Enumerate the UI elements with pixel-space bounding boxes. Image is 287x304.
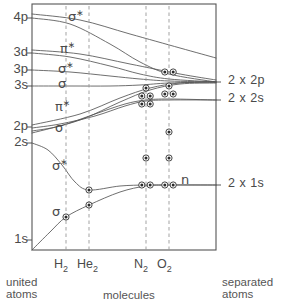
right-level-label-2x2p: 2 x 2p	[228, 74, 265, 87]
orbital-symbol: σ	[55, 120, 63, 135]
orbital-symbol: σ	[58, 76, 66, 91]
right-level-label-2x1s: 2 x 1s	[228, 177, 264, 190]
orbital-label-pi-star-2p: π∗	[55, 99, 70, 113]
orbital-label-sigma-star-3p: σ∗	[58, 61, 74, 75]
footer-united-atoms: united atoms	[6, 277, 37, 300]
figure-canvas: 4p3d3p3s2p2s1s 2 x 2p2 x 2s2 x 1s σ∗π∗σ∗…	[0, 0, 287, 304]
molecule-he2-label: He2	[77, 258, 98, 274]
orbital-label-pi-star-3d: π∗	[60, 41, 75, 55]
orbital-symbol: σ	[52, 158, 60, 173]
orbital-symbol: n	[181, 172, 189, 187]
orbital-label-nonbonding-n: n	[181, 173, 189, 186]
electron-dot	[147, 93, 153, 99]
left-level-label-2s: 2s	[2, 135, 28, 148]
element-symbol: O	[157, 257, 167, 271]
electron-dot	[162, 91, 168, 97]
electron-dot	[166, 155, 172, 161]
antibonding-star: ∗	[60, 157, 68, 167]
antibonding-star: ∗	[76, 8, 84, 18]
element-symbol: H	[54, 257, 63, 271]
orbital-symbol: σ	[58, 61, 66, 76]
electron-dot	[162, 182, 168, 188]
left-level-label-4p: 4p	[2, 10, 28, 23]
molecule-h2-label: H2	[54, 258, 68, 274]
subscript-count: 2	[167, 264, 172, 274]
orbital-symbol: π	[55, 99, 63, 114]
left-level-label-3p: 3p	[2, 62, 28, 75]
electron-dot	[170, 69, 176, 75]
subscript-count: 2	[63, 264, 68, 274]
left-level-label-3s: 3s	[2, 78, 28, 91]
footer-separated-atoms: separated atoms	[222, 277, 273, 300]
electron-dot	[63, 214, 69, 220]
molecule-n2-label: N2	[134, 258, 148, 274]
electron-dot	[143, 85, 149, 91]
electron-dot	[86, 187, 92, 193]
orbital-symbol: σ	[52, 204, 60, 219]
electron-dot	[166, 129, 172, 135]
electron-dot	[162, 69, 168, 75]
electron-dot	[139, 101, 145, 107]
electron-dot	[86, 202, 92, 208]
orbital-label-sigma-3s: σ	[58, 77, 66, 90]
electron-dots	[63, 69, 176, 220]
electron-dot	[139, 93, 145, 99]
orbital-label-sigma-2p: σ	[55, 121, 63, 134]
subscript-count: 2	[93, 264, 98, 274]
electron-dot	[170, 182, 176, 188]
electron-dot	[166, 83, 172, 89]
left-level-label-1s: 1s	[2, 232, 28, 245]
antibonding-star: ∗	[66, 60, 74, 70]
orbital-symbol: π	[60, 41, 68, 56]
orbital-label-sigma-1s: σ	[52, 205, 60, 218]
orbital-label-sigma-star-2s: σ∗	[52, 158, 68, 172]
antibonding-star: ∗	[63, 98, 71, 108]
antibonding-star: ∗	[68, 40, 76, 50]
electron-dot	[139, 182, 145, 188]
electron-dot	[147, 182, 153, 188]
molecule-guidelines	[66, 6, 169, 250]
electron-dot	[170, 91, 176, 97]
orbital-symbol: σ	[68, 9, 76, 24]
left-level-label-2p: 2p	[2, 119, 28, 132]
right-level-label-2x2s: 2 x 2s	[228, 92, 264, 105]
molecule-o2-label: O2	[157, 258, 172, 274]
electron-dot	[147, 101, 153, 107]
electron-dot	[143, 155, 149, 161]
element-symbol: He	[77, 257, 93, 271]
element-symbol: N	[134, 257, 143, 271]
footer-molecules: molecules	[103, 290, 155, 302]
subscript-count: 2	[143, 264, 148, 274]
right-level-ticks	[216, 82, 221, 185]
orbital-label-sigma-star-4p: σ∗	[68, 9, 84, 23]
left-level-label-3d: 3d	[2, 45, 28, 58]
